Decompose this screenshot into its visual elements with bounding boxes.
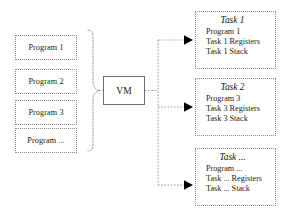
task-title: Task ... (196, 152, 275, 163)
program-label: Program 3 (28, 108, 63, 117)
task-detail-line: Task 1 Stack (206, 47, 275, 57)
vm-box[interactable]: VM (103, 76, 145, 105)
task-box-3[interactable]: Task ... Program ... Task ... Registers … (195, 148, 276, 206)
task-detail-lines: Program 1 Task 1 Registers Task 1 Stack (196, 27, 275, 58)
task-detail-line: Program 3 (206, 94, 275, 104)
arrow-to-task-3 (158, 180, 193, 190)
arrow-to-task-2 (158, 102, 193, 112)
program-box-3[interactable]: Program 3 (15, 100, 77, 125)
task-detail-line: Task ... Registers (206, 174, 275, 184)
task-box-1[interactable]: Task 1 Program 1 Task 1 Registers Task 1… (195, 11, 276, 69)
task-detail-line: Program 1 (206, 27, 275, 37)
task-detail-line: Task 3 Registers (206, 104, 275, 114)
task-detail-line: Task 3 Stack (206, 114, 275, 124)
task-box-2[interactable]: Task 2 Program 3 Task 3 Registers Task 3… (195, 78, 276, 136)
program-label: Program 2 (28, 77, 63, 86)
task-detail-line: Task 1 Registers (206, 37, 275, 47)
task-detail-line: Program ... (206, 164, 275, 174)
vm-label: VM (116, 85, 131, 96)
task-detail-line: Task ... Stack (206, 184, 275, 194)
task-detail-lines: Program 3 Task 3 Registers Task 3 Stack (196, 94, 275, 125)
program-box-2[interactable]: Program 2 (15, 69, 77, 94)
task-detail-lines: Program ... Task ... Registers Task ... … (196, 164, 275, 195)
task-title: Task 1 (196, 15, 275, 26)
program-box-1[interactable]: Program 1 (15, 35, 77, 60)
arrow-to-task-1 (158, 35, 193, 45)
program-label: Program ... (27, 136, 64, 145)
programs-to-vm-brace (88, 30, 99, 151)
program-label: Program 1 (28, 43, 63, 52)
program-box-4[interactable]: Program ... (15, 128, 77, 153)
task-title: Task 2 (196, 82, 275, 93)
vm-task-diagram: Program 1 Program 2 Program 3 Program ..… (0, 0, 286, 216)
